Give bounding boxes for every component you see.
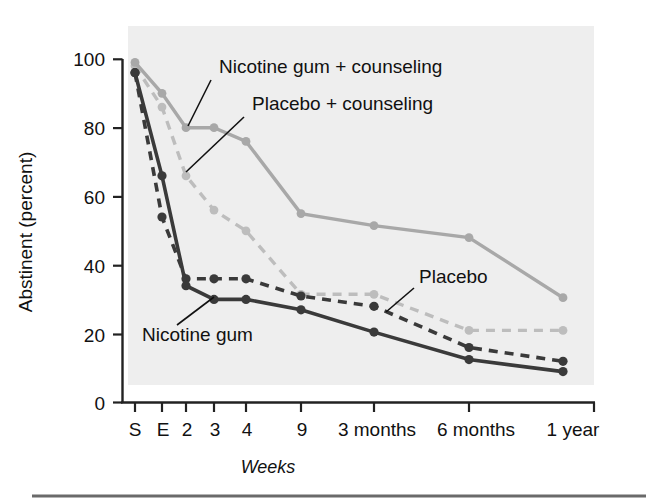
x-axis-ticks [135, 403, 594, 413]
annotation-nicotine-gum-plus-counseling: Nicotine gum + counseling [219, 56, 442, 77]
annotation-nicotine-gum: Nicotine gum [142, 324, 253, 345]
xtick-label-9: 9 [297, 419, 308, 440]
y-axis-ticks [113, 59, 123, 402]
ytick-label-40: 40 [84, 256, 105, 277]
ytick-label-0: 0 [94, 393, 105, 414]
chart-figure: 100 80 60 40 20 0 Abstinent (percent) S … [0, 0, 668, 502]
x-axis-title: Weeks [241, 457, 296, 477]
xtick-label-3-months: 3 months [338, 419, 416, 440]
xtick-label-s: S [129, 419, 142, 440]
x-axis-tick-labels: S E 2 3 4 9 3 months 6 months 1 year [129, 419, 600, 440]
xtick-label-e: E [157, 419, 170, 440]
xtick-label-2: 2 [182, 419, 193, 440]
ytick-label-20: 20 [84, 325, 105, 346]
y-axis-tick-labels: 100 80 60 40 20 0 [73, 49, 105, 414]
xtick-label-3: 3 [210, 419, 221, 440]
ytick-label-60: 60 [84, 187, 105, 208]
xtick-label-4: 4 [242, 419, 253, 440]
ytick-label-80: 80 [84, 118, 105, 139]
abstinence-line-chart: 100 80 60 40 20 0 Abstinent (percent) S … [0, 0, 668, 502]
xtick-label-1-year: 1 year [547, 419, 600, 440]
annotation-placebo: Placebo [419, 266, 488, 287]
xtick-label-6-months: 6 months [437, 419, 515, 440]
ytick-label-100: 100 [73, 49, 105, 70]
y-axis-title: Abstinent (percent) [15, 152, 36, 313]
annotation-placebo-plus-counseling: Placebo + counseling [252, 93, 433, 114]
